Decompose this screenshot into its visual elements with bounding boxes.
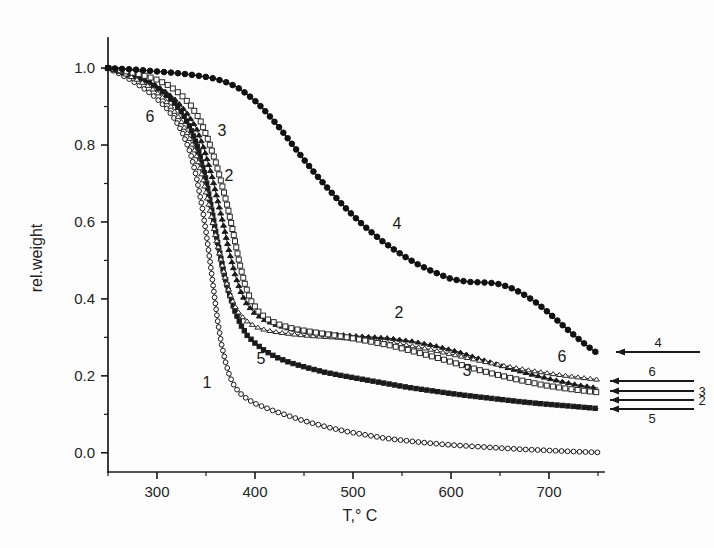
data-marker — [440, 442, 445, 447]
data-marker — [575, 387, 580, 392]
data-marker — [258, 103, 264, 109]
data-marker — [199, 200, 204, 205]
data-marker — [205, 242, 210, 247]
data-marker — [565, 327, 571, 333]
data-marker — [369, 433, 374, 438]
data-marker — [550, 384, 555, 389]
data-marker — [142, 73, 147, 78]
data-marker — [380, 435, 385, 440]
data-marker — [515, 289, 521, 295]
data-marker — [222, 354, 227, 359]
data-marker — [434, 270, 440, 276]
data-marker — [229, 220, 234, 225]
data-marker — [393, 344, 398, 349]
x-tick-label: 700 — [536, 483, 561, 500]
data-marker — [430, 389, 434, 393]
data-marker — [217, 172, 222, 177]
curve-label-3: 3 — [463, 362, 472, 379]
data-marker — [207, 254, 212, 259]
data-marker — [453, 361, 458, 366]
data-marker — [322, 424, 327, 429]
data-marker — [363, 225, 369, 231]
data-marker — [231, 382, 236, 387]
data-marker — [594, 390, 599, 395]
data-marker — [470, 444, 475, 449]
data-marker — [441, 357, 446, 362]
data-marker — [219, 342, 224, 347]
data-marker — [189, 154, 194, 159]
data-marker — [482, 445, 487, 450]
data-marker — [140, 67, 146, 73]
data-marker — [252, 304, 257, 309]
data-marker — [391, 247, 397, 253]
data-marker — [218, 178, 223, 183]
data-marker — [223, 79, 229, 85]
data-marker — [276, 410, 281, 415]
data-marker — [409, 258, 415, 264]
data-marker — [463, 393, 467, 397]
data-marker — [464, 444, 469, 449]
data-marker — [521, 292, 527, 298]
data-marker — [218, 336, 223, 341]
y-axis-title: rel.weight — [28, 223, 45, 292]
data-marker — [358, 220, 364, 226]
y-tick-label: 0.0 — [74, 444, 95, 461]
data-marker — [265, 406, 270, 411]
data-marker — [544, 383, 549, 388]
data-marker — [242, 329, 246, 333]
data-marker — [293, 147, 299, 153]
x-tick-label: 400 — [242, 483, 267, 500]
data-marker — [387, 382, 391, 386]
data-marker — [247, 293, 252, 298]
data-marker — [329, 190, 335, 196]
data-marker — [198, 119, 203, 124]
data-marker — [523, 447, 528, 452]
data-marker — [307, 329, 312, 334]
data-marker — [259, 404, 264, 409]
data-marker — [380, 238, 386, 244]
data-marker — [385, 243, 391, 249]
data-marker — [405, 347, 410, 352]
data-marker — [323, 370, 327, 374]
data-marker — [216, 325, 221, 330]
data-marker — [230, 82, 236, 88]
data-marker — [360, 377, 364, 381]
data-marker — [285, 135, 291, 141]
data-marker — [287, 414, 292, 419]
chart-background — [0, 0, 714, 548]
data-marker — [213, 301, 218, 306]
data-marker — [565, 449, 570, 454]
data-marker — [587, 345, 593, 351]
data-marker — [511, 399, 515, 403]
data-marker — [154, 69, 160, 75]
data-marker — [350, 336, 355, 341]
data-marker — [262, 108, 268, 114]
data-marker — [415, 261, 421, 267]
data-marker — [201, 125, 206, 130]
data-marker — [532, 381, 537, 386]
data-marker — [595, 450, 600, 455]
data-marker — [461, 278, 467, 284]
data-marker — [234, 245, 239, 250]
data-marker — [479, 395, 483, 399]
data-marker — [468, 394, 472, 398]
data-marker — [414, 386, 418, 390]
data-marker — [496, 281, 502, 287]
data-marker — [112, 66, 118, 72]
data-marker — [271, 353, 275, 357]
data-marker — [289, 141, 295, 147]
data-marker — [569, 387, 574, 392]
data-marker — [397, 250, 403, 256]
data-marker — [133, 67, 139, 73]
data-marker — [327, 425, 332, 430]
data-marker — [229, 377, 234, 382]
data-marker — [223, 360, 228, 365]
data-marker — [428, 441, 433, 446]
data-marker — [411, 349, 416, 354]
data-marker — [517, 399, 521, 403]
data-marker — [419, 387, 423, 391]
data-marker — [266, 350, 270, 354]
data-marker — [477, 368, 482, 373]
data-marker — [236, 86, 242, 92]
data-marker — [351, 430, 356, 435]
